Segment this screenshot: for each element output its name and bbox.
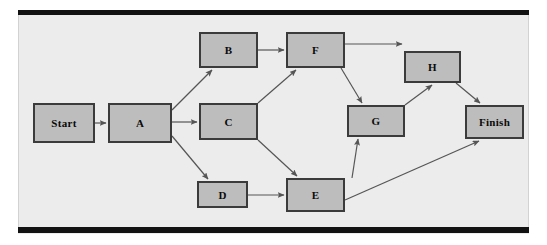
edge-c-to-f	[258, 70, 296, 103]
edge-f-to-g	[341, 68, 362, 103]
node-label-finish: Finish	[479, 116, 510, 128]
node-label-a: A	[136, 117, 144, 129]
node-d[interactable]: D	[197, 181, 248, 208]
node-h[interactable]: H	[404, 51, 461, 83]
node-start[interactable]: Start	[33, 103, 95, 143]
node-finish[interactable]: Finish	[465, 105, 524, 139]
node-label-start: Start	[51, 117, 76, 129]
node-label-h: H	[428, 61, 437, 73]
node-label-g: G	[372, 115, 381, 127]
node-e[interactable]: E	[286, 178, 345, 212]
node-b[interactable]: B	[199, 32, 258, 68]
node-f[interactable]: F	[286, 32, 345, 68]
edge-e-to-g	[352, 139, 358, 178]
edge-e-to-finish	[345, 141, 479, 200]
edge-g-to-h	[405, 85, 432, 105]
edge-a-to-d	[172, 136, 208, 179]
edge-c-to-e	[258, 140, 297, 176]
node-label-e: E	[312, 189, 320, 201]
node-c[interactable]: C	[199, 103, 258, 140]
node-label-d: D	[218, 189, 226, 201]
node-label-c: C	[224, 116, 232, 128]
node-label-f: F	[312, 44, 319, 56]
diagram-canvas: StartABCDEFGHFinish	[0, 0, 547, 245]
node-g[interactable]: G	[347, 105, 405, 137]
edge-h-to-finish	[456, 83, 480, 103]
node-label-b: B	[225, 44, 233, 56]
node-a[interactable]: A	[108, 103, 172, 143]
